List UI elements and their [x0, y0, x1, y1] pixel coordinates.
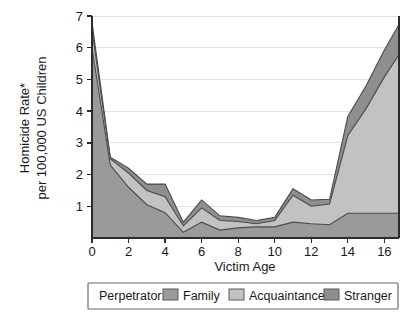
x-tick-label: 4	[161, 244, 168, 259]
x-tick-label: 0	[88, 244, 95, 259]
y-tick-label: 2	[76, 167, 83, 182]
y-tick-label: 7	[76, 9, 83, 24]
legend-entry-group: FamilyAcquaintanceStranger	[163, 289, 392, 303]
y-tick-label: 1	[76, 199, 83, 214]
x-tick-label: 2	[125, 244, 132, 259]
x-tick-label: 16	[377, 244, 391, 259]
y-axis-title-line1: Homicide Rate*	[17, 83, 32, 173]
x-tick-label: 8	[235, 244, 242, 259]
x-tick-label: 14	[341, 244, 355, 259]
legend-label-acquaintance: Acquaintance	[249, 289, 325, 303]
legend-swatch-family	[163, 289, 178, 300]
legend-title: Perpetrator:	[99, 289, 165, 303]
y-tick-label: 5	[76, 72, 83, 87]
homicide-rate-stacked-area-chart: 12345670246810121416 Victim Age Homicide…	[0, 0, 418, 317]
legend-swatch-acquaintance	[229, 289, 244, 300]
y-tick-label: 6	[76, 40, 83, 55]
x-tick-label: 12	[304, 244, 318, 259]
x-axis-title: Victim Age	[214, 259, 275, 274]
legend-label-stranger: Stranger	[344, 289, 392, 303]
y-tick-label: 4	[76, 104, 83, 119]
chart-legend: Perpetrator: FamilyAcquaintanceStranger	[88, 283, 398, 309]
y-tick-label: 3	[76, 135, 83, 150]
legend-swatch-stranger	[324, 289, 339, 300]
y-axis-title-line2: per 100,000 US Children	[34, 56, 49, 199]
legend-label-family: Family	[183, 289, 221, 303]
x-tick-label: 6	[198, 244, 205, 259]
x-tick-label: 10	[268, 244, 282, 259]
